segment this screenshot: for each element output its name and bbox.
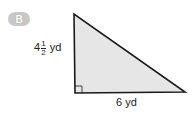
height-label: 412 yd	[34, 40, 61, 57]
height-whole: 4	[34, 41, 40, 53]
right-triangle-diagram	[0, 0, 192, 115]
height-fraction: 12	[41, 40, 45, 57]
height-unit: yd	[50, 41, 62, 53]
base-label: 6 yd	[116, 96, 137, 108]
triangle-shape	[74, 14, 185, 93]
height-denominator: 2	[41, 49, 45, 57]
